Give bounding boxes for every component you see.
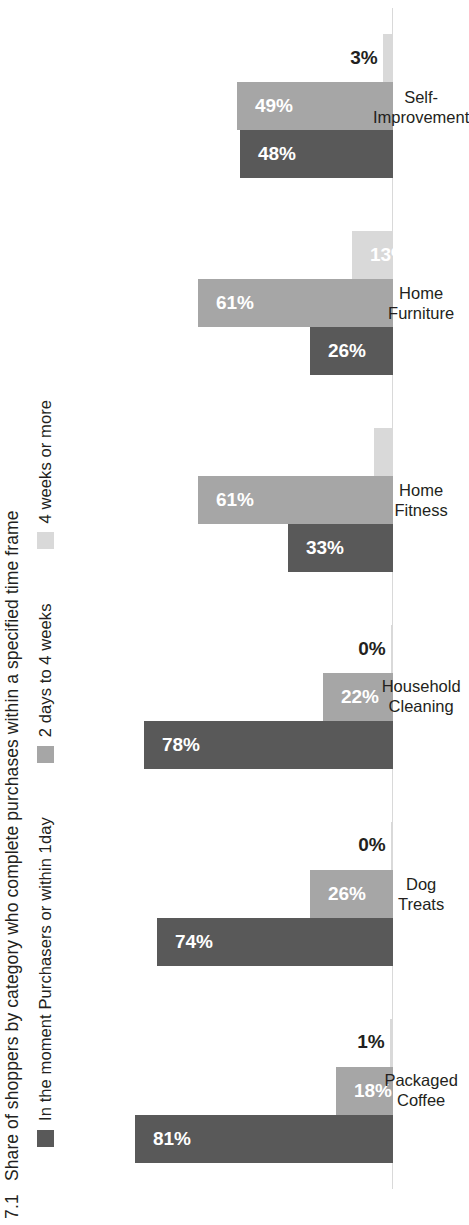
bar-slot: 26% xyxy=(74,870,393,918)
category-label-text: Household Cleaning xyxy=(382,677,461,717)
figure-title-row: 7.1 Share of shoppers by category who co… xyxy=(2,6,23,1219)
bar-value-label: 26% xyxy=(328,340,366,362)
legend-item: 2 days to 4 weeks xyxy=(36,603,55,763)
bar-slot: 22% xyxy=(74,673,393,721)
bar-value-label: 26% xyxy=(328,883,366,905)
bar[interactable]: 81% xyxy=(135,1115,393,1163)
bar-value-label: 78% xyxy=(162,734,200,756)
category-label: Home Fitness xyxy=(393,402,467,599)
category-label-text: Packaged Coffee xyxy=(384,1070,457,1110)
bar-slot: 61% xyxy=(74,279,393,327)
bar-value-label: 61% xyxy=(216,489,254,511)
bar-group-bars: 78%22%0% xyxy=(74,599,393,796)
bar-value-label: 0% xyxy=(358,638,385,660)
bar[interactable]: 61% xyxy=(198,279,393,327)
bar-group-bars: 81%18%1% xyxy=(74,992,393,1189)
bar-slot: 81% xyxy=(74,1115,393,1163)
bar-slot: 13% xyxy=(74,231,393,279)
bar-group-bars: 33%61%6% xyxy=(74,402,393,599)
bar-value-label: 33% xyxy=(306,537,344,559)
legend-swatch-two_days_to_four_weeks xyxy=(37,746,54,763)
bar-slot: 18% xyxy=(74,1067,393,1115)
category-label-text: Home Furniture xyxy=(388,283,454,323)
bar-slot: 33% xyxy=(74,524,393,572)
legend-item: In the moment Purchasers or within 1day xyxy=(36,817,55,1147)
bar-group: 48%49%3%Self- Improvement xyxy=(74,8,467,205)
bar-group: 26%61%13%Home Furniture xyxy=(74,205,467,402)
bar-value-label: 61% xyxy=(216,292,254,314)
bar-group: 81%18%1%Packaged Coffee xyxy=(74,992,467,1189)
bar[interactable]: 3% xyxy=(383,34,393,82)
chart-legend: In the moment Purchasers or within 1day2… xyxy=(36,400,55,1147)
bar-value-label: 74% xyxy=(175,931,213,953)
bar-group: 33%61%6%Home Fitness xyxy=(74,402,467,599)
bar[interactable]: 74% xyxy=(157,918,393,966)
bar-group: 78%22%0%Household Cleaning xyxy=(74,599,467,796)
legend-label: 4 weeks or more xyxy=(36,400,55,523)
category-label-text: Self- Improvement xyxy=(373,86,469,126)
legend-label: In the moment Purchasers or within 1day xyxy=(36,817,55,1121)
legend-label: 2 days to 4 weeks xyxy=(36,603,55,737)
bar-group-bars: 26%61%13% xyxy=(74,205,393,402)
bar-groups: 81%18%1%Packaged Coffee74%26%0%Dog Treat… xyxy=(74,8,467,1189)
legend-swatch-in_the_moment xyxy=(37,1130,54,1147)
bar-group-bars: 74%26%0% xyxy=(74,795,393,992)
figure-title: Share of shoppers by category who comple… xyxy=(2,510,23,1181)
bar-group: 74%26%0%Dog Treats xyxy=(74,795,467,992)
category-label: Household Cleaning xyxy=(393,599,467,796)
bar[interactable]: 33% xyxy=(288,524,393,572)
bar[interactable]: 26% xyxy=(310,870,393,918)
category-label: Dog Treats xyxy=(393,795,467,992)
bar-slot: 49% xyxy=(74,82,393,130)
bar-slot: 78% xyxy=(74,721,393,769)
bar[interactable]: 61% xyxy=(198,476,393,524)
bar-slot: 3% xyxy=(74,34,393,82)
bar-value-label: 22% xyxy=(341,686,379,708)
bar-value-label: 1% xyxy=(357,1032,384,1054)
bar-value-label: 48% xyxy=(258,143,296,165)
bar[interactable]: 26% xyxy=(310,327,393,375)
bar-slot: 1% xyxy=(74,1019,393,1067)
bar-value-label: 0% xyxy=(358,835,385,857)
bar-slot: 0% xyxy=(74,625,393,673)
category-label-text: Dog Treats xyxy=(398,874,444,914)
category-label: Home Furniture xyxy=(393,205,467,402)
legend-item: 4 weeks or more xyxy=(36,400,55,549)
category-label: Packaged Coffee xyxy=(393,992,467,1189)
category-label-text: Home Fitness xyxy=(395,480,448,520)
bar[interactable]: 48% xyxy=(240,130,393,178)
bar[interactable]: 6% xyxy=(374,428,393,476)
bar-slot: 6% xyxy=(74,428,393,476)
bar-slot: 48% xyxy=(74,130,393,178)
bar-value-label: 49% xyxy=(255,95,293,117)
figure-number: 7.1 xyxy=(2,1194,23,1219)
bar[interactable]: 49% xyxy=(237,82,393,130)
bar[interactable]: 78% xyxy=(144,721,393,769)
bar-slot: 61% xyxy=(74,476,393,524)
chart-plot-area: 81%18%1%Packaged Coffee74%26%0%Dog Treat… xyxy=(74,0,467,1225)
bar-group-bars: 48%49%3% xyxy=(74,8,393,205)
legend-swatch-four_weeks_or_more xyxy=(37,532,54,549)
bar-slot: 0% xyxy=(74,822,393,870)
bar[interactable]: 13% xyxy=(352,231,393,279)
category-label: Self- Improvement xyxy=(393,8,467,205)
bar-value-label: 81% xyxy=(153,1128,191,1150)
bar-value-label: 3% xyxy=(351,47,378,69)
bar-slot: 74% xyxy=(74,918,393,966)
bar-slot: 26% xyxy=(74,327,393,375)
